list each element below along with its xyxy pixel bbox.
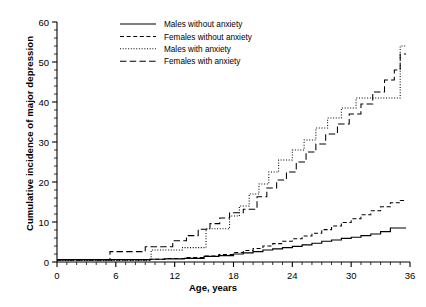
y-tick-label: 0 [44,257,49,268]
series-line-3 [57,54,406,260]
y-tick-label: 50 [38,57,49,68]
x-tick-label: 24 [287,270,298,281]
legend-label-1: Females without anxiety [164,33,253,42]
legend-layer: Males without anxietyFemales without anx… [120,20,253,66]
legend-label-3: Females with anxiety [164,57,241,66]
series-line-2 [57,46,406,260]
x-tick-label: 0 [54,270,59,281]
series-line-1 [57,200,406,260]
y-tick-label: 10 [38,217,49,228]
y-tick-label: 30 [38,137,49,148]
legend-label-0: Males without anxiety [164,20,243,29]
x-tick-label: 6 [113,270,118,281]
x-tick-label: 18 [228,270,239,281]
chart-canvas: 0612182430360102030405060 Males without … [0,0,426,307]
legend-label-2: Males with anxiety [164,45,232,54]
y-axis-title: Cumulative incidence of major depression [24,9,35,259]
axes-layer: 0612182430360102030405060 [38,17,415,282]
x-axis-title: Age, years [0,282,426,293]
chart-figure: 0612182430360102030405060 Males without … [0,0,426,307]
y-tick-label: 60 [38,17,49,28]
x-tick-label: 36 [405,270,416,281]
x-tick-label: 12 [169,270,180,281]
series-layer [57,46,406,260]
y-tick-label: 40 [38,97,49,108]
x-tick-label: 30 [346,270,357,281]
y-tick-label: 20 [38,177,49,188]
